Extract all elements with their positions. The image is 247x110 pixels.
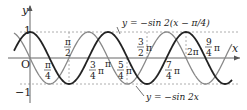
svg-text:π: π xyxy=(146,43,152,53)
label-shifted-curve: y = −sin 2(x − π/4) xyxy=(121,18,210,28)
sine-graph: y x O 1 −1 π4 π2 34π π 54π 32π 74π 2π 94… xyxy=(0,0,247,110)
svg-text:7: 7 xyxy=(166,60,172,70)
y-axis-arrow-icon xyxy=(28,5,33,11)
svg-text:π: π xyxy=(105,59,111,69)
pointer-top xyxy=(117,27,120,34)
svg-text:π: π xyxy=(126,66,132,76)
svg-text:π: π xyxy=(98,66,104,76)
graph-figure: y x O 1 −1 π4 π2 34π π 54π 32π 74π 2π 94… xyxy=(0,0,247,110)
svg-text:4: 4 xyxy=(45,71,51,81)
svg-text:2: 2 xyxy=(65,48,71,58)
pointer-bottom xyxy=(136,86,144,96)
svg-text:π: π xyxy=(65,37,71,47)
svg-text:π: π xyxy=(214,43,220,53)
x-tick-labels: π4 π2 34π π 54π 32π 74π 2π 94π xyxy=(44,37,220,81)
svg-text:3: 3 xyxy=(138,37,144,47)
svg-text:3: 3 xyxy=(90,60,96,70)
svg-text:π: π xyxy=(45,60,51,70)
svg-text:5: 5 xyxy=(118,60,124,70)
svg-text:4: 4 xyxy=(118,71,124,81)
svg-text:9: 9 xyxy=(206,37,212,47)
svg-text:2π: 2π xyxy=(187,47,199,57)
tick-minus-1: −1 xyxy=(15,86,31,99)
label-gray-curve: y = −sin 2x xyxy=(145,92,199,102)
y-axis-label: y xyxy=(21,4,29,17)
x-axis-arrow-icon xyxy=(234,56,240,61)
svg-text:4: 4 xyxy=(90,71,96,81)
tick-1: 1 xyxy=(24,24,31,37)
svg-text:2: 2 xyxy=(138,48,144,58)
svg-text:π: π xyxy=(174,66,180,76)
svg-text:4: 4 xyxy=(206,48,212,58)
origin-label: O xyxy=(21,58,30,71)
x-axis-label: x xyxy=(232,42,239,55)
svg-text:4: 4 xyxy=(166,71,172,81)
